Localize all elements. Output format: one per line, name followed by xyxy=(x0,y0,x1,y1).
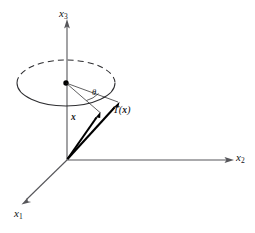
axis-label-x2: x2 xyxy=(236,152,245,165)
rotation-figure: x3 x2 x1 θ x T(x) xyxy=(0,0,255,233)
vector-label-x: x xyxy=(71,113,76,123)
axis-label-x2-subscript: 2 xyxy=(241,156,245,165)
axis-label-x3-subscript: 3 xyxy=(64,12,68,21)
axis-x3 xyxy=(64,19,70,160)
vector-label-tx-close-paren: ) xyxy=(127,104,131,115)
axis-label-x3: x3 xyxy=(59,8,68,21)
axis-x1 xyxy=(22,160,68,205)
rotation-circle-front-arc xyxy=(17,83,115,106)
angle-label-theta: θ xyxy=(92,88,96,97)
axis-x1-line xyxy=(27,160,68,200)
figure-canvas xyxy=(0,0,255,233)
axis-label-x1: x1 xyxy=(14,208,23,221)
vector-label-tx: T(x) xyxy=(113,105,131,116)
rotation-circle-back-arc xyxy=(17,60,115,83)
axis-label-x1-subscript: 1 xyxy=(19,212,23,221)
axis-x2 xyxy=(67,157,234,163)
axis-x1-arrowhead xyxy=(22,198,32,205)
vector-tx xyxy=(68,102,120,159)
